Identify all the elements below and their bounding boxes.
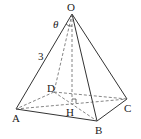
solid-edges <box>16 14 127 121</box>
edge-OB <box>72 14 97 121</box>
edge-AB <box>16 109 97 121</box>
label-A: A <box>12 112 20 124</box>
edge-BC <box>97 99 127 121</box>
label-O: O <box>67 1 75 13</box>
label-D: D <box>47 82 55 94</box>
right-angle-icon <box>72 99 76 103</box>
edge-OA <box>16 14 72 109</box>
label-theta: θ <box>53 18 59 30</box>
pyramid-diagram: O θ 3 D A H B C <box>0 0 141 139</box>
label-B: B <box>95 124 102 136</box>
diagonal-DB <box>54 92 97 121</box>
hidden-edges <box>16 14 127 121</box>
angle-arc-icon <box>66 24 72 26</box>
edge-OC <box>72 14 127 99</box>
label-C: C <box>124 102 131 114</box>
label-edge-length: 3 <box>38 50 44 62</box>
label-H: H <box>66 106 74 118</box>
